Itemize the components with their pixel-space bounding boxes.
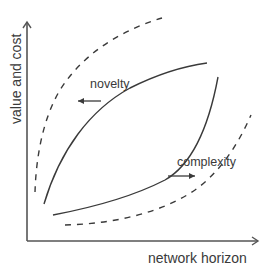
complexity-label: complexity bbox=[177, 155, 237, 169]
novelty-dashed-curve bbox=[35, 18, 162, 192]
complexity-solid-curve bbox=[53, 77, 218, 215]
x-axis-label: network horizon bbox=[148, 250, 247, 266]
novelty-label: novelty bbox=[90, 77, 130, 91]
diagram-svg: novelty complexity network horizon value… bbox=[0, 0, 276, 271]
axes bbox=[27, 22, 258, 241]
y-axis-label: value and cost bbox=[8, 34, 24, 124]
diagram-canvas: novelty complexity network horizon value… bbox=[0, 0, 276, 271]
complexity-dashed-curve bbox=[65, 115, 251, 225]
